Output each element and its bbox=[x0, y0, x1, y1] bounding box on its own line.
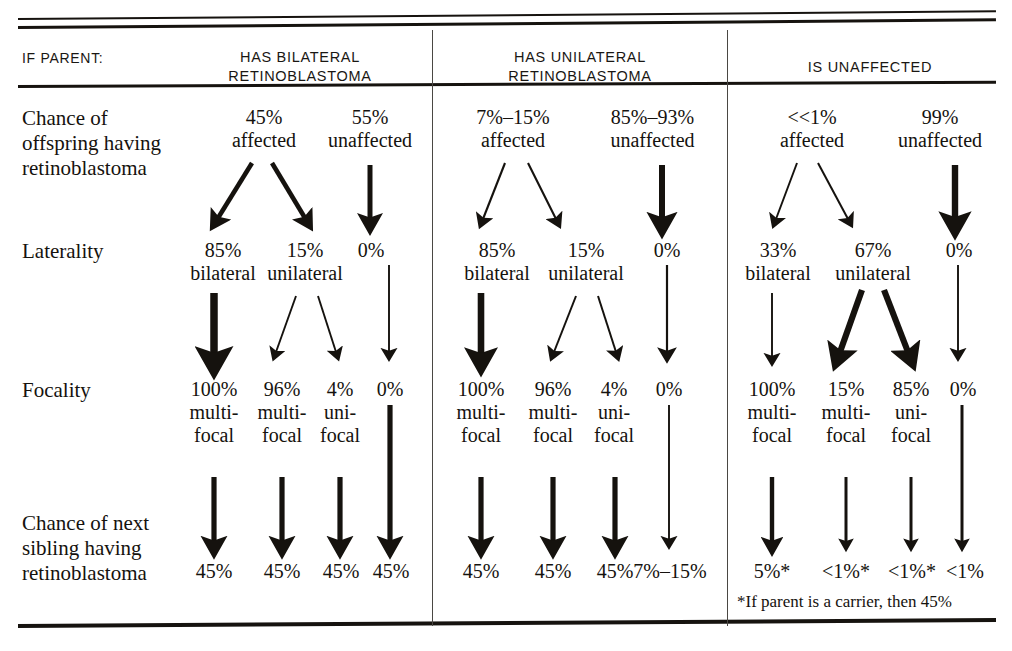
col1-laterality-zero: 0% bbox=[341, 239, 401, 262]
col3-laterality-bilateral-label: bilateral bbox=[733, 262, 823, 285]
col1-sibling-4: 45% bbox=[363, 560, 419, 583]
col3-laterality-bilateral: 33% bilateral bbox=[733, 239, 823, 285]
col3-offspring-affected: <<1% affected bbox=[760, 106, 864, 152]
row-label-offspring-chance-line1: Chance of bbox=[22, 106, 161, 131]
col1-focality-2-label2: focal bbox=[249, 424, 315, 447]
col2-sibling-1: 45% bbox=[447, 560, 515, 583]
col2-focality-2-label1: multi- bbox=[519, 401, 587, 424]
col2-focality-3-pct: 4% bbox=[583, 378, 645, 401]
col1-focality-3-pct: 4% bbox=[310, 378, 370, 401]
col1-focality-3-label1: uni- bbox=[310, 401, 370, 424]
col1-focality-3-label2: focal bbox=[310, 424, 370, 447]
col1-sibling-1: 45% bbox=[180, 560, 248, 583]
col1-focality-4-pct: 0% bbox=[362, 378, 418, 401]
row-label-sibling-chance: Chance of next sibling having retinoblas… bbox=[22, 511, 149, 586]
col2-arrow-affected-to-unilateral bbox=[528, 163, 556, 219]
arrow-layer bbox=[0, 0, 1012, 651]
col1-focality-1-label2: focal bbox=[178, 424, 250, 447]
column-header-unilateral: HAS UNILATERAL RETINOBLASTOMA bbox=[480, 48, 680, 86]
col3-laterality-zero: 0% bbox=[929, 239, 989, 262]
col3-focality-2: 15% multi- focal bbox=[812, 378, 880, 447]
column-header-unaffected: IS UNAFFECTED bbox=[770, 58, 970, 77]
col3-focality-2-label2: focal bbox=[812, 424, 880, 447]
col2-laterality-unilateral: 15% unilateral bbox=[536, 239, 636, 285]
column-header-bilateral-line2: RETINOBLASTOMA bbox=[200, 67, 400, 86]
col3-focality-3-label1: uni- bbox=[878, 401, 944, 424]
col3-offspring-unaffected-label: unaffected bbox=[880, 129, 1000, 152]
col1-sibling-2: 45% bbox=[249, 560, 315, 583]
col2-laterality-unilateral-label: unilateral bbox=[536, 262, 636, 285]
col2-laterality-bilateral: 85% bilateral bbox=[452, 239, 542, 285]
column-header-unilateral-line1: HAS UNILATERAL bbox=[480, 48, 680, 67]
col2-focality-1-pct: 100% bbox=[444, 378, 518, 401]
col3-sibling-1: 5%* bbox=[738, 560, 806, 583]
col2-focality-3-label2: focal bbox=[583, 424, 645, 447]
col1-focality-2: 96% multi- focal bbox=[249, 378, 315, 447]
col1-focality-1-pct: 100% bbox=[178, 378, 250, 401]
col3-arrow-unilateral-to-unifocal bbox=[884, 290, 908, 352]
col1-focality-1-label1: multi- bbox=[178, 401, 250, 424]
col2-laterality-unilateral-pct: 15% bbox=[536, 239, 636, 262]
row-label-focality: Focality bbox=[22, 378, 91, 403]
col3-focality-3-label2: focal bbox=[878, 424, 944, 447]
col2-focality-2-pct: 96% bbox=[519, 378, 587, 401]
col2-focality-4: 0% bbox=[641, 378, 697, 401]
row-label-offspring-chance: Chance of offspring having retinoblastom… bbox=[22, 106, 161, 181]
col2-offspring-unaffected-pct: 85%–93% bbox=[590, 106, 715, 129]
col1-laterality-zero-pct: 0% bbox=[341, 239, 401, 262]
top-rule-inner bbox=[18, 18, 996, 29]
col3-laterality-zero-pct: 0% bbox=[929, 239, 989, 262]
col2-laterality-bilateral-label: bilateral bbox=[452, 262, 542, 285]
if-parent-header: IF PARENT: bbox=[22, 50, 103, 66]
col3-laterality-unilateral-pct: 67% bbox=[823, 239, 923, 262]
carrier-footnote: *If parent is a carrier, then 45% bbox=[737, 592, 952, 612]
col1-arrow-affected-to-bilateral bbox=[218, 163, 252, 218]
col2-laterality-zero: 0% bbox=[637, 239, 697, 262]
row-label-sibling-chance-line2: sibling having bbox=[22, 536, 149, 561]
col2-offspring-affected: 7%–15% affected bbox=[453, 106, 573, 152]
col1-arrow-unilateral-to-unifocal bbox=[318, 296, 336, 352]
col2-sibling-2: 45% bbox=[519, 560, 587, 583]
col1-offspring-unaffected-pct: 55% bbox=[310, 106, 430, 129]
col3-focality-1-label1: multi- bbox=[735, 401, 809, 424]
col2-focality-1-label2: focal bbox=[444, 424, 518, 447]
col2-laterality-zero-pct: 0% bbox=[637, 239, 697, 262]
col3-laterality-unilateral: 67% unilateral bbox=[823, 239, 923, 285]
col3-offspring-unaffected-pct: 99% bbox=[880, 106, 1000, 129]
col2-focality-3: 4% uni- focal bbox=[583, 378, 645, 447]
row-label-offspring-chance-line3: retinoblastoma bbox=[22, 156, 161, 181]
col2-focality-3-label1: uni- bbox=[583, 401, 645, 424]
col1-focality-3: 4% uni- focal bbox=[310, 378, 370, 447]
col3-focality-4: 0% bbox=[935, 378, 991, 401]
col2-offspring-unaffected: 85%–93% unaffected bbox=[590, 106, 715, 152]
col3-arrow-unilateral-to-multifocal bbox=[840, 290, 862, 352]
col3-arrow-affected-to-unilateral bbox=[818, 163, 848, 219]
col1-offspring-affected-label: affected bbox=[209, 129, 319, 152]
col1-focality-2-pct: 96% bbox=[249, 378, 315, 401]
col3-focality-1: 100% multi- focal bbox=[735, 378, 809, 447]
diagram-canvas: IF PARENT: HAS BILATERAL RETINOBLASTOMA … bbox=[0, 0, 1012, 651]
col3-offspring-affected-pct: <<1% bbox=[760, 106, 864, 129]
col2-offspring-affected-pct: 7%–15% bbox=[453, 106, 573, 129]
col2-focality-4-pct: 0% bbox=[641, 378, 697, 401]
col2-offspring-affected-label: affected bbox=[453, 129, 573, 152]
column-header-bilateral-line1: HAS BILATERAL bbox=[200, 48, 400, 67]
row-label-offspring-chance-line2: offspring having bbox=[22, 131, 161, 156]
col1-arrow-unilateral-to-multifocal bbox=[276, 296, 296, 352]
col3-focality-2-pct: 15% bbox=[812, 378, 880, 401]
column-header-unilateral-line2: RETINOBLASTOMA bbox=[480, 67, 680, 86]
col3-sibling-2: <1%* bbox=[810, 560, 882, 583]
col1-focality-1: 100% multi- focal bbox=[178, 378, 250, 447]
col3-focality-1-label2: focal bbox=[735, 424, 809, 447]
col1-sibling-3: 45% bbox=[311, 560, 371, 583]
col1-offspring-unaffected: 55% unaffected bbox=[310, 106, 430, 152]
col3-laterality-unilateral-label: unilateral bbox=[823, 262, 923, 285]
column-header-bilateral: HAS BILATERAL RETINOBLASTOMA bbox=[200, 48, 400, 86]
row-label-sibling-chance-line3: retinoblastoma bbox=[22, 561, 149, 586]
col3-focality-1-pct: 100% bbox=[735, 378, 809, 401]
col1-laterality-unilateral-label: unilateral bbox=[255, 262, 355, 285]
col2-laterality-bilateral-pct: 85% bbox=[452, 239, 542, 262]
col3-arrow-affected-to-bilateral bbox=[776, 163, 797, 219]
row-label-sibling-chance-line1: Chance of next bbox=[22, 511, 149, 536]
col2-arrow-unilateral-to-multifocal bbox=[554, 296, 576, 352]
